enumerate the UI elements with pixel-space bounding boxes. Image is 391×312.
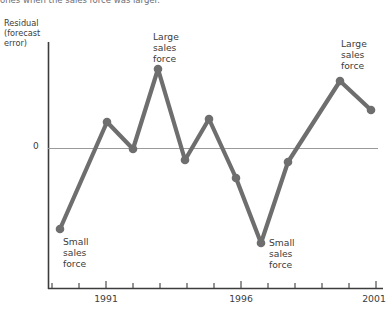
- residual-line-series: [60, 69, 371, 243]
- annotation-line: Large: [153, 31, 179, 42]
- data-point-markers: [56, 65, 376, 248]
- annotation-line: force: [341, 60, 367, 71]
- data-point: [181, 156, 190, 165]
- chart-plot-area: [0, 0, 391, 312]
- annotation-line: sales: [341, 49, 367, 60]
- data-point: [205, 115, 214, 124]
- data-point: [336, 77, 345, 86]
- annotation-line: force: [153, 53, 179, 64]
- data-point: [284, 158, 293, 167]
- annotation-line: sales: [63, 247, 89, 258]
- data-point: [367, 106, 376, 115]
- residual-chart-figure: ones when the sales force was larger. Re…: [0, 0, 391, 312]
- x-tick-label-1996: 1996: [229, 293, 253, 304]
- data-point: [56, 225, 65, 234]
- annotation-line: Large: [341, 38, 367, 49]
- annotation-line: Small: [269, 237, 295, 248]
- annotation-line: force: [63, 258, 89, 269]
- annotation-small-sales-force-right: Small sales force: [269, 237, 295, 271]
- annotation-large-sales-force-left: Large sales force: [153, 31, 179, 65]
- x-tick-label-2001: 2001: [362, 293, 386, 304]
- annotation-line: sales: [269, 248, 295, 259]
- data-point: [257, 239, 266, 248]
- annotation-line: force: [269, 259, 295, 270]
- annotation-line: Small: [63, 236, 89, 247]
- annotation-line: sales: [153, 42, 179, 53]
- annotation-large-sales-force-right: Large sales force: [341, 38, 367, 72]
- x-axis-ticks: [52, 281, 376, 288]
- data-point: [154, 65, 163, 74]
- x-tick-label-1991: 1991: [94, 293, 118, 304]
- data-point: [103, 118, 112, 127]
- data-point: [129, 145, 138, 154]
- data-point: [232, 174, 241, 183]
- annotation-small-sales-force-left: Small sales force: [63, 236, 89, 270]
